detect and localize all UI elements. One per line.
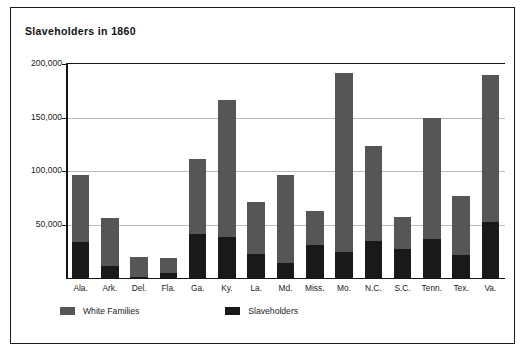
x-axis-tick-label: Md. xyxy=(271,283,300,293)
bar-segment-slaveholders xyxy=(277,263,295,278)
bar-segment-slaveholders xyxy=(130,277,148,278)
bar-segment-slaveholders xyxy=(247,254,265,278)
bar-segment-white-families xyxy=(306,211,324,245)
bar-segment-white-families xyxy=(277,175,295,263)
bar-stack xyxy=(101,218,119,278)
y-axis-tick-label: 200,000 xyxy=(4,58,62,68)
bar-segment-white-families xyxy=(482,75,500,223)
plot-area xyxy=(66,64,505,278)
x-axis-tick-label: Fla. xyxy=(154,283,183,293)
y-axis-tick-label: 150,000 xyxy=(4,112,62,122)
legend-label: Slaveholders xyxy=(248,306,298,316)
bar-stack xyxy=(247,202,265,278)
bar-segment-white-families xyxy=(452,196,470,255)
bar-segment-white-families xyxy=(218,100,236,236)
x-axis-tick-label: Del. xyxy=(125,283,154,293)
bar-segment-slaveholders xyxy=(423,239,441,278)
bar-segment-white-families xyxy=(130,257,148,278)
bar-stack xyxy=(423,118,441,279)
bar-stack xyxy=(277,175,295,278)
bar-segment-white-families xyxy=(247,202,265,254)
x-axis-tick-label: Ark. xyxy=(95,283,124,293)
bar-stack xyxy=(335,73,353,278)
chart-figure: Slaveholders in 1860 200,000150,000100,0… xyxy=(0,0,527,361)
bar-segment-slaveholders xyxy=(160,273,178,278)
slaveholders-swatch xyxy=(225,307,240,315)
bar-segment-white-families xyxy=(189,159,207,234)
bar-stack xyxy=(365,146,383,278)
bar-stack xyxy=(482,75,500,278)
bar-segment-slaveholders xyxy=(101,266,119,278)
bar-segment-white-families xyxy=(72,175,90,241)
bar-segment-white-families xyxy=(423,118,441,239)
bar-stack xyxy=(306,211,324,278)
bar-segment-white-families xyxy=(101,218,119,266)
bar-segment-white-families xyxy=(394,217,412,249)
bar-stack xyxy=(130,257,148,278)
bar-segment-white-families xyxy=(365,146,383,241)
bar-segment-slaveholders xyxy=(335,252,353,278)
bar-segment-slaveholders xyxy=(306,245,324,278)
bar-stack xyxy=(160,258,178,278)
x-axis-tick-label: N.C. xyxy=(359,283,388,293)
bar-stack xyxy=(72,175,90,278)
bar-stack xyxy=(189,159,207,278)
x-axis-tick-label: Ala. xyxy=(66,283,95,293)
bar-stack xyxy=(394,217,412,278)
x-axis-tick-label: Miss. xyxy=(300,283,329,293)
legend-item: White Families xyxy=(60,306,139,316)
x-axis-tick-label: Tenn. xyxy=(417,283,446,293)
y-axis-tick-label: 50,000 xyxy=(4,219,62,229)
bar-segment-slaveholders xyxy=(189,234,207,278)
bar-segment-slaveholders xyxy=(72,242,90,278)
y-axis-tick-label: 100,000 xyxy=(4,165,62,175)
x-axis-tick-label: Mo. xyxy=(329,283,358,293)
x-axis-tick-label: Va. xyxy=(476,283,505,293)
page-title: Slaveholders in 1860 xyxy=(25,25,136,37)
x-axis-tick-label: S.C. xyxy=(388,283,417,293)
white-families-swatch xyxy=(60,307,75,315)
bar-segment-white-families xyxy=(160,258,178,273)
bar-segment-slaveholders xyxy=(452,255,470,278)
legend-item: Slaveholders xyxy=(225,306,298,316)
x-axis-tick-label: La. xyxy=(242,283,271,293)
legend-label: White Families xyxy=(83,306,139,316)
bar-segment-slaveholders xyxy=(394,249,412,278)
bar-stack xyxy=(452,196,470,278)
bar-segment-slaveholders xyxy=(365,241,383,278)
bar-stack xyxy=(218,100,236,278)
x-axis-tick-label: Tex. xyxy=(446,283,475,293)
bar-segment-white-families xyxy=(335,73,353,252)
x-axis-tick-label: Ky. xyxy=(212,283,241,293)
chart-legend: White FamiliesSlaveholders xyxy=(60,306,298,316)
bar-segment-slaveholders xyxy=(218,237,236,278)
bar-segment-slaveholders xyxy=(482,222,500,278)
x-axis-tick-label: Ga. xyxy=(183,283,212,293)
